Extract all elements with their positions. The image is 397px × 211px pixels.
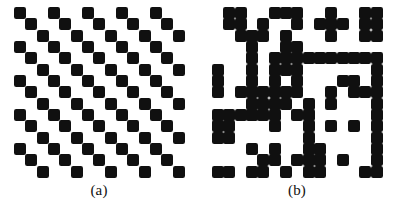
panel-a-caption: (a) xyxy=(14,181,184,199)
texture-cell xyxy=(246,52,258,64)
texture-cell xyxy=(269,109,281,121)
texture-cell xyxy=(246,86,258,98)
texture-cell xyxy=(71,30,83,42)
texture-cell xyxy=(48,143,60,155)
texture-cell xyxy=(93,18,105,30)
texture-cell xyxy=(82,75,94,87)
texture-cell xyxy=(257,18,269,30)
texture-cell xyxy=(48,41,60,53)
texture-cell xyxy=(303,143,315,155)
texture-cell xyxy=(314,154,326,166)
texture-cell xyxy=(325,7,337,19)
texture-cell xyxy=(71,64,83,76)
texture-cell xyxy=(93,120,105,132)
texture-cell xyxy=(59,154,71,166)
texture-cell xyxy=(93,154,105,166)
texture-cell xyxy=(291,86,303,98)
texture-cell xyxy=(14,143,26,155)
texture-cell xyxy=(212,75,224,87)
texture-cell xyxy=(223,132,235,144)
texture-cell xyxy=(314,143,326,155)
texture-cell xyxy=(314,166,326,178)
texture-cell xyxy=(59,18,71,30)
texture-cell xyxy=(150,75,162,87)
texture-cell xyxy=(291,109,303,121)
texture-cell xyxy=(48,7,60,19)
texture-cell xyxy=(127,52,139,64)
texture-cell xyxy=(269,120,281,132)
texture-cell xyxy=(325,52,337,64)
texture-cell xyxy=(173,98,185,110)
texture-cell xyxy=(127,86,139,98)
texture-cell xyxy=(371,143,383,155)
texture-cell xyxy=(139,166,151,178)
texture-cell xyxy=(257,166,269,178)
texture-cell xyxy=(173,64,185,76)
texture-cell xyxy=(105,64,117,76)
texture-cell xyxy=(161,86,173,98)
texture-cell xyxy=(269,75,281,87)
texture-cell xyxy=(14,41,26,53)
texture-cell xyxy=(246,166,258,178)
texture-cell xyxy=(257,86,269,98)
texture-cell xyxy=(371,120,383,132)
texture-cell xyxy=(325,86,337,98)
texture-cell xyxy=(348,86,360,98)
texture-cell xyxy=(303,120,315,132)
texture-cell xyxy=(223,109,235,121)
texture-cell xyxy=(325,98,337,110)
texture-cell xyxy=(14,75,26,87)
texture-cell xyxy=(269,7,281,19)
texture-cell xyxy=(105,98,117,110)
texture-cell xyxy=(359,30,371,42)
texture-cell xyxy=(59,52,71,64)
texture-cell xyxy=(257,154,269,166)
panel-b xyxy=(212,7,382,178)
panel-a-grid xyxy=(14,7,184,178)
texture-cell xyxy=(246,30,258,42)
texture-cell xyxy=(303,154,315,166)
texture-cell xyxy=(291,18,303,30)
texture-cell xyxy=(246,109,258,121)
texture-cell xyxy=(161,18,173,30)
texture-cell xyxy=(105,132,117,144)
panel-a xyxy=(14,7,184,178)
texture-cell xyxy=(371,18,383,30)
texture-cell xyxy=(212,86,224,98)
texture-cell xyxy=(161,52,173,64)
texture-cell xyxy=(280,64,292,76)
texture-cell xyxy=(127,18,139,30)
texture-cell xyxy=(223,120,235,132)
texture-cell xyxy=(359,7,371,19)
texture-cell xyxy=(37,64,49,76)
texture-cell xyxy=(269,86,281,98)
texture-cell xyxy=(14,109,26,121)
texture-cell xyxy=(71,166,83,178)
texture-cell xyxy=(212,166,224,178)
panel-b-caption: (b) xyxy=(212,181,382,199)
texture-cell xyxy=(280,41,292,53)
texture-cell xyxy=(105,166,117,178)
texture-cell xyxy=(93,86,105,98)
texture-cell xyxy=(337,18,349,30)
texture-cell xyxy=(161,120,173,132)
texture-cell xyxy=(257,109,269,121)
texture-cell xyxy=(280,52,292,64)
texture-cell xyxy=(71,132,83,144)
texture-cell xyxy=(223,166,235,178)
texture-cell xyxy=(371,98,383,110)
texture-cell xyxy=(48,109,60,121)
texture-cell xyxy=(173,132,185,144)
texture-cell xyxy=(303,166,315,178)
texture-cell xyxy=(25,86,37,98)
texture-cell xyxy=(291,75,303,87)
texture-cell xyxy=(257,98,269,110)
texture-cell xyxy=(246,75,258,87)
texture-cell xyxy=(371,64,383,76)
texture-cell xyxy=(105,30,117,42)
texture-cell xyxy=(280,166,292,178)
texture-cell xyxy=(139,98,151,110)
texture-cell xyxy=(303,52,315,64)
texture-cell xyxy=(371,109,383,121)
texture-cell xyxy=(212,120,224,132)
